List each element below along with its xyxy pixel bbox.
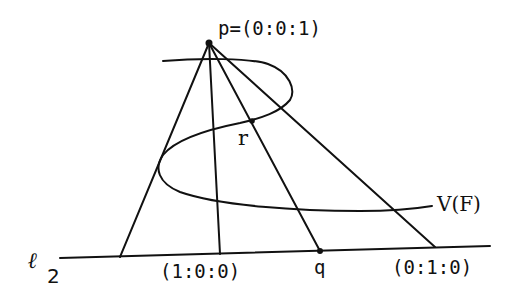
label-y-point: (0:1:0): [392, 258, 472, 277]
label-p: p=(0:0:1): [218, 19, 321, 38]
point-q-dot: [317, 248, 323, 254]
ray-2-to-x-point: [209, 43, 220, 254]
label-line-letter: ℓ: [28, 249, 37, 271]
ray-3-through-r-to-q: [209, 43, 320, 251]
label-r: r: [238, 128, 248, 149]
point-r-dot: [249, 118, 255, 124]
curve-vf: [159, 59, 432, 211]
label-x-point: (1:0:0): [160, 262, 240, 281]
label-line-subscript: 2: [47, 266, 60, 286]
point-p-dot: [206, 40, 213, 47]
label-curve-vf: V(F): [437, 194, 481, 214]
label-q: q: [314, 258, 325, 277]
diagram-svg: [0, 0, 522, 296]
diagram-canvas: p=(0:0:1) r V(F) ℓ 2 (1:0:0) q (0:1:0): [0, 0, 522, 296]
ray-1: [120, 43, 209, 257]
